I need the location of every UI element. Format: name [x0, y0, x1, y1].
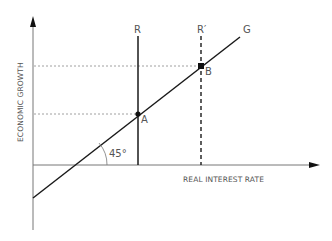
r-label: R: [134, 25, 141, 35]
y-axis-label: ECONOMIC GROWTH: [17, 62, 25, 142]
point-a: [135, 111, 140, 116]
r-prime-label: R′: [197, 25, 206, 35]
diagram-svg: [0, 0, 332, 241]
g-line: [33, 37, 240, 198]
y-axis-arrow-icon: [30, 16, 36, 27]
x-axis-label: REAL INTEREST RATE: [183, 176, 264, 184]
diagram-canvas: R R′ G A B 45° REAL INTEREST RATE ECONOM…: [0, 0, 332, 241]
point-b-label: B: [205, 67, 212, 77]
point-b: [198, 63, 204, 69]
g-label: G: [243, 25, 251, 35]
x-axis-arrow-icon: [309, 162, 320, 168]
point-a-label: A: [141, 115, 148, 125]
angle-label: 45°: [109, 149, 127, 159]
